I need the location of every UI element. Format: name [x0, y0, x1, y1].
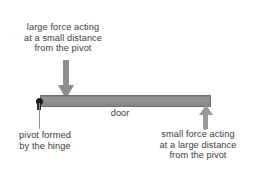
small-force-annotation: small force acting at a large distance f…	[143, 129, 253, 161]
large-force-line-2: at a small distance	[13, 33, 113, 44]
pivot-line-2: by the hinge	[3, 141, 87, 152]
large-force-annotation: large force acting at a small distance f…	[13, 22, 113, 54]
large-force-line-3: from the pivot	[13, 43, 113, 54]
small-force-line-3: from the pivot	[143, 150, 253, 161]
pivot-line-1: pivot formed	[3, 130, 87, 141]
large-force-down-arrow-icon	[56, 60, 76, 100]
pivot-annotation: pivot formed by the hinge	[3, 130, 87, 151]
large-force-line-1: large force acting	[13, 22, 113, 33]
small-force-line-1: small force acting	[143, 129, 253, 140]
small-force-up-arrow-icon	[197, 104, 215, 129]
small-force-line-2: at a large distance	[143, 140, 253, 151]
door-beam	[40, 95, 211, 107]
pivot-leader-line	[39, 103, 40, 129]
diagram-canvas: large force acting at a small distance f…	[0, 0, 255, 178]
door-label: door	[100, 108, 140, 118]
